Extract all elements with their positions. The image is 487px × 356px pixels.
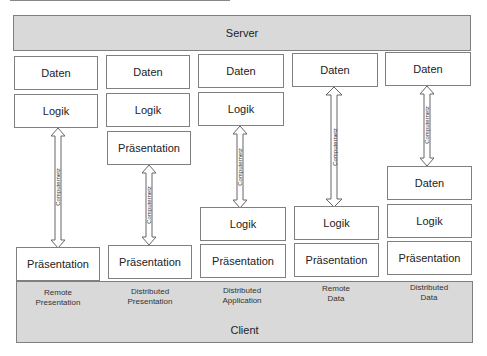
col1-arrow-label: Computernetz: [55, 163, 61, 211]
col3-praesentation-box: Präsentation: [200, 244, 286, 278]
col1-praesentation-box: Präsentation: [16, 247, 100, 281]
col2-praesentation-server-box: Präsentation: [107, 131, 191, 165]
col3-logik-client-box: Logik: [200, 207, 286, 241]
col3-logik-server-box: Logik: [198, 92, 284, 126]
server-band: Server: [13, 15, 471, 51]
col2-daten-box: Daten: [106, 55, 190, 89]
col5-daten-server-box: Daten: [385, 52, 471, 86]
col2-logik-box: Logik: [106, 93, 190, 127]
col2-arrow-label: Computernetz: [146, 181, 152, 229]
col5-caption: DistributedData: [384, 283, 474, 303]
col1-caption: RemotePresentation: [13, 288, 103, 308]
col5-arrow-label: Computernetz: [424, 101, 430, 149]
col3-caption: DistributedApplication: [197, 286, 287, 306]
col1-daten-box: Daten: [14, 56, 98, 90]
col3-arrow-label: Computernetz: [237, 143, 243, 191]
col4-daten-box: Daten: [292, 53, 378, 87]
col5-daten-client-box: Daten: [387, 166, 472, 200]
client-label: Client: [230, 324, 258, 336]
col2-praesentation-client-box: Präsentation: [108, 245, 192, 279]
server-label: Server: [226, 27, 258, 39]
col4-praesentation-box: Präsentation: [294, 243, 379, 277]
col4-arrow-label: Computernetz: [332, 123, 338, 171]
col1-logik-box: Logik: [14, 94, 98, 128]
col4-caption: RemoteData: [291, 284, 381, 304]
col5-praesentation-box: Präsentation: [387, 241, 472, 275]
col4-logik-box: Logik: [294, 206, 379, 240]
col2-caption: DistributedPresentation: [105, 287, 195, 307]
col5-logik-box: Logik: [387, 204, 472, 238]
col3-daten-box: Daten: [198, 54, 284, 88]
top-divider: [10, 0, 230, 1]
